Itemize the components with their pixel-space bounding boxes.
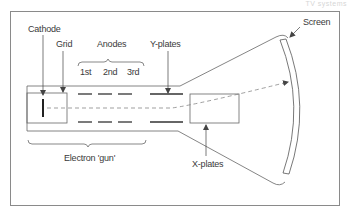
x-plates-box [190, 94, 239, 123]
cathode-label: Cathode [28, 25, 61, 34]
y-plates-label: Y-plates [150, 40, 181, 49]
anodes-label: Anodes [97, 40, 126, 49]
grid-label: Grid [56, 40, 72, 49]
x-plates-label: X-plates [192, 160, 223, 169]
anodes-brace [78, 59, 144, 66]
anode-3rd-label: 3rd [127, 68, 139, 77]
anode-2nd-label: 2nd [103, 68, 117, 77]
screen-label: Screen [303, 18, 330, 27]
screen-pointer [290, 27, 300, 37]
screen [280, 39, 300, 174]
electron-gun-brace [28, 140, 146, 147]
anode-1st-label: 1st [80, 68, 91, 77]
electron-gun-label: Electron 'gun' [64, 154, 115, 163]
